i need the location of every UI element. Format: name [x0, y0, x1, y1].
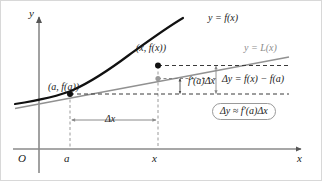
boxed-formula: Δy ≈ f′(a)Δx	[212, 103, 276, 120]
point-marker-tangent-x	[155, 76, 160, 81]
linear-approximation-figure: y x O a x y = f(x) y = L(x) (x, f(x)) (a…	[0, 0, 322, 181]
point-label-x: (x, f(x))	[136, 43, 166, 53]
tangent-rise-label: f′(a)Δx	[188, 76, 215, 86]
x-tick-label-a: a	[64, 153, 70, 164]
y-axis-label: y	[29, 8, 34, 19]
origin-label: O	[18, 153, 26, 164]
function-curve-label: y = f(x)	[208, 13, 238, 23]
point-label-a: (a, f(a))	[48, 82, 79, 92]
tangent-line-label: y = L(x)	[244, 43, 277, 53]
point-marker-x	[155, 63, 161, 69]
delta-x-label: Δx	[105, 114, 115, 124]
x-tick-label-x: x	[152, 153, 157, 164]
function-curve	[15, 18, 183, 104]
x-axis-label: x	[297, 153, 302, 164]
delta-y-label: Δy = f(x) − f(a)	[222, 74, 284, 84]
